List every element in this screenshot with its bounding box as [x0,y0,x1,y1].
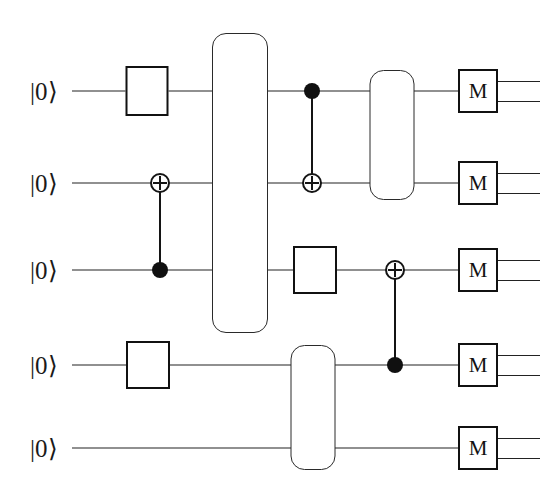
multi-qubit-gate-q3-q4[interactable] [291,345,336,470]
quantum-circuit-diagram: |0⟩|0⟩|0⟩|0⟩|0⟩MMMMM [0,0,547,490]
measurement-q1-classical-wire-0 [498,173,540,174]
cnot-control-q2-target-q1-link [159,183,161,270]
cnot-control-q2-target-q1-target[interactable] [150,173,170,193]
measurement-q1[interactable]: M [458,161,498,205]
unlabeled-gate-q3[interactable] [126,341,170,389]
measurement-q4[interactable]: M [458,426,498,470]
measurement-q3-classical-wire-0 [498,355,540,356]
cnot-control-q3-target-q2-link [394,270,396,365]
cnot-control-q3-target-q2-target[interactable] [385,260,405,280]
measurement-q1-classical-wire-1 [498,193,540,194]
measurement-q0-classical-wire-0 [498,81,540,82]
multi-qubit-gate-q0-q2[interactable] [212,33,268,333]
measurement-q3-classical-wire-1 [498,375,540,376]
cnot-control-q0-target-q1-link [311,91,313,183]
measurement-q3[interactable]: M [458,343,498,387]
measurement-q2-classical-wire-1 [498,280,540,281]
measurement-q4-classical-wire-0 [498,438,540,439]
cnot-control-q0-target-q1-target[interactable] [302,173,322,193]
cnot-control-q2-target-q1-control-dot[interactable] [152,262,168,278]
measurement-q0-classical-wire-1 [498,101,540,102]
measurement-q2[interactable]: M [458,248,498,292]
qubit-label-q3: |0⟩ [30,353,58,378]
cnot-control-q0-target-q1-control-dot[interactable] [304,83,320,99]
multi-qubit-gate-q0-q1[interactable] [370,70,415,200]
measurement-q3-label: M [469,353,488,378]
measurement-q1-label: M [469,171,488,196]
qubit-label-q1: |0⟩ [30,171,58,196]
qubit-label-q0: |0⟩ [30,79,58,104]
measurement-q4-classical-wire-1 [498,458,540,459]
unlabeled-gate-q2[interactable] [293,246,337,294]
qubit-label-q2: |0⟩ [30,258,58,283]
cnot-control-q3-target-q2-control-dot[interactable] [387,357,403,373]
measurement-q0-label: M [469,79,488,104]
qubit-wire-q4 [72,448,458,449]
qubit-label-q4: |0⟩ [30,436,58,461]
measurement-q2-label: M [469,258,488,283]
measurement-q2-classical-wire-0 [498,260,540,261]
measurement-q0[interactable]: M [458,69,498,113]
unlabeled-gate-q0[interactable] [126,66,169,116]
measurement-q4-label: M [469,436,488,461]
